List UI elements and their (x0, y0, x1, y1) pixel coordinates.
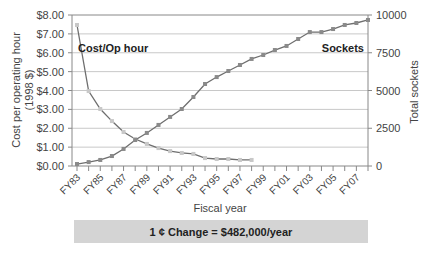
x-tick-label: FY83 (58, 171, 83, 196)
sockets-series-label: Sockets (322, 42, 364, 54)
x-tick-label: FY93 (174, 171, 199, 196)
data-point-marker (308, 30, 312, 34)
data-point-marker (122, 130, 126, 134)
x-axis-ticks: FY83FY85FY87FY89FY91FY93FY95FY97FY99FY01… (58, 166, 368, 196)
y-tick-label: $3.00 (36, 103, 64, 115)
x-tick-label: FY91 (151, 171, 176, 196)
data-point-marker (319, 30, 323, 34)
data-point-marker (343, 23, 347, 27)
data-point-marker (238, 158, 242, 162)
y2-tick-label: 0 (376, 160, 382, 172)
y-tick-label: $0.00 (36, 160, 64, 172)
x-tick-label: FY05 (314, 171, 339, 196)
x-tick-label: FY85 (81, 171, 106, 196)
data-point-marker (145, 131, 149, 135)
data-point-marker (203, 82, 207, 86)
data-point-marker (250, 158, 254, 162)
data-point-marker (168, 115, 172, 119)
data-series (75, 18, 370, 166)
data-point-marker (98, 158, 102, 162)
data-point-marker (250, 57, 254, 61)
y2-tick-label: 10000 (376, 9, 407, 21)
data-point-marker (168, 149, 172, 153)
data-point-marker (98, 107, 102, 111)
data-point-marker (156, 146, 160, 150)
x-tick-label: FY97 (221, 171, 246, 196)
data-point-marker (215, 75, 219, 79)
data-point-marker (273, 48, 277, 52)
data-point-marker (75, 162, 79, 166)
data-point-marker (238, 63, 242, 67)
data-point-marker (366, 18, 370, 22)
y2-tick-label: 5000 (376, 85, 400, 97)
left-axis-ticks: $0.00$1.00$2.00$3.00$4.00$5.00$6.00$7.00… (36, 9, 72, 172)
right-axis-label: Total sockets (408, 60, 420, 124)
data-point-marker (156, 123, 160, 127)
gridlines (72, 15, 368, 166)
right-axis-ticks: 025005000750010000 (368, 9, 407, 172)
data-point-marker (285, 44, 289, 48)
y-tick-label: $5.00 (36, 66, 64, 78)
data-point-marker (133, 138, 137, 142)
x-tick-label: FY99 (244, 171, 269, 196)
y2-tick-label: 2500 (376, 122, 400, 134)
y-axis-label-line2: (1998 $) (23, 70, 35, 111)
y-tick-label: $2.00 (36, 122, 64, 134)
y-tick-label: $1.00 (36, 141, 64, 153)
data-point-marker (226, 157, 230, 161)
y2-tick-label: 7500 (376, 47, 400, 59)
data-point-marker (110, 119, 114, 123)
cost-change-banner: 1 ¢ Change = $482,000/year (74, 220, 368, 243)
y-tick-label: $8.00 (36, 9, 64, 21)
data-point-marker (75, 23, 79, 27)
x-tick-label: FY95 (197, 171, 222, 196)
dual-axis-line-chart: $0.00$1.00$2.00$3.00$4.00$5.00$6.00$7.00… (0, 0, 431, 254)
y-tick-label: $6.00 (36, 47, 64, 59)
cost-series-label: Cost/Op hour (78, 42, 149, 54)
data-point-marker (122, 147, 126, 151)
data-point-marker (110, 154, 114, 158)
data-point-marker (191, 95, 195, 99)
data-point-marker (331, 27, 335, 31)
x-tick-label: FY01 (267, 171, 292, 196)
data-point-marker (203, 156, 207, 160)
x-axis-label: Fiscal year (193, 202, 247, 214)
data-point-marker (261, 53, 265, 57)
data-point-marker (354, 21, 358, 25)
banner-text: 1 ¢ Change = $482,000/year (150, 226, 293, 238)
data-point-marker (215, 157, 219, 161)
x-tick-label: FY89 (128, 171, 153, 196)
data-point-marker (87, 160, 91, 164)
data-point-marker (191, 152, 195, 156)
x-tick-label: FY03 (291, 171, 316, 196)
data-point-marker (180, 151, 184, 155)
y-axis-label-line1: Cost per operating hour (10, 32, 22, 148)
data-point-marker (226, 69, 230, 73)
y-tick-label: $7.00 (36, 28, 64, 40)
y-tick-label: $4.00 (36, 85, 64, 97)
data-point-marker (296, 37, 300, 41)
data-point-marker (87, 89, 91, 93)
x-tick-label: FY87 (104, 171, 129, 196)
data-point-marker (145, 142, 149, 146)
x-tick-label: FY07 (337, 171, 362, 196)
data-point-marker (180, 107, 184, 111)
